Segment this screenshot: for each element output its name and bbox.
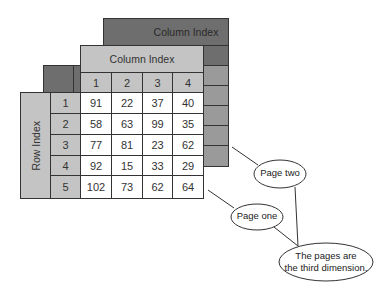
page-two-callout-label: Page two [260,167,300,178]
third-dimension-callout: The pages are the third dimension. [280,250,372,274]
page-two-callout: Page two [254,167,306,179]
page-one-callout: Page one [231,210,283,222]
page-one-callout-label: Page one [237,210,278,221]
third-dimension-line2: the third dimension. [280,262,372,274]
third-dimension-line1: The pages are [280,250,372,262]
